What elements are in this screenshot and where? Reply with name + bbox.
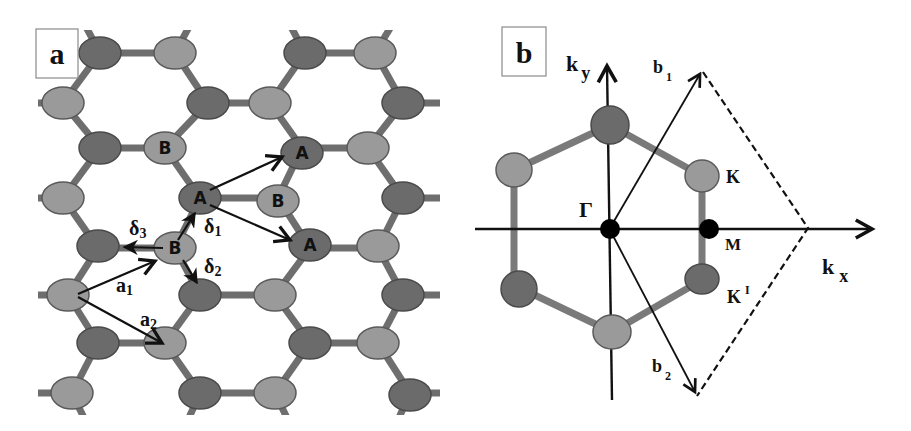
delta2-label: δ2: [204, 255, 221, 279]
atom: [357, 230, 399, 262]
atom: [347, 132, 389, 164]
atom: [382, 182, 424, 214]
panel-b-label: b: [502, 27, 546, 76]
honeycomb-lattice: [30, 25, 445, 420]
sublattice-a-label: A: [193, 188, 207, 208]
a1-label: a1: [116, 274, 133, 298]
atom: [254, 279, 296, 311]
gamma-label: Γ: [579, 197, 593, 222]
atom: [179, 377, 221, 409]
b1-label: b1: [653, 57, 672, 84]
sublattice-a-label: A: [295, 143, 309, 163]
atom: [382, 87, 424, 119]
delta3-label: δ3: [129, 217, 146, 241]
bz-vertex-k-prime: [685, 264, 719, 294]
atom: [382, 279, 424, 311]
sublattice-b-label: B: [169, 238, 182, 258]
b1-arrow: [610, 74, 700, 228]
atom: [179, 279, 221, 311]
atom: [354, 37, 396, 69]
panel-b: b Γ K: [475, 27, 872, 400]
delta1-label: δ1: [204, 215, 221, 239]
svg-text:b: b: [516, 36, 533, 69]
atom: [42, 182, 84, 214]
delta3-arrow: [124, 247, 163, 248]
gamma-point: [600, 219, 620, 239]
atom: [51, 377, 93, 409]
atom: [289, 327, 331, 359]
sublattice-a-label: A: [303, 235, 317, 255]
atom: [79, 37, 121, 69]
atom: [249, 87, 291, 119]
atom: [77, 327, 119, 359]
atom: [47, 279, 89, 311]
svg-text:a: a: [50, 37, 65, 70]
bz-vertex-lower-left: [501, 271, 537, 307]
k-prime-label: KI: [727, 283, 750, 307]
lattice-atoms: [42, 37, 431, 411]
m-point: [699, 219, 719, 239]
kx-label: kx: [822, 254, 848, 286]
atom: [389, 379, 431, 411]
atom: [284, 37, 326, 69]
bz-vertex-k: [685, 160, 719, 192]
atom: [187, 87, 229, 119]
k-label: K: [726, 167, 740, 187]
atom: [79, 132, 121, 164]
a2-label: a2: [140, 308, 157, 332]
atom: [154, 37, 196, 69]
bz-vertex-bottom: [593, 315, 631, 349]
atom: [254, 377, 296, 409]
atom: [357, 327, 399, 359]
panel-a: B A A B B A δ1 δ3 δ2 a1 a2: [30, 25, 445, 420]
sublattice-b-label: B: [159, 138, 172, 158]
bz-vertex-top: [591, 106, 629, 144]
lattice-bonds: [30, 25, 445, 420]
b2-label: b2: [652, 356, 671, 383]
m-label: M: [725, 235, 741, 254]
ky-label: ky: [566, 51, 590, 83]
bz-vertex-upper-left: [496, 153, 532, 187]
atom: [77, 230, 119, 262]
sublattice-b-label: B: [272, 191, 285, 211]
panel-a-label: a: [36, 29, 78, 78]
atom: [42, 87, 84, 119]
figure: B A A B B A δ1 δ3 δ2 a1 a2: [0, 0, 911, 431]
